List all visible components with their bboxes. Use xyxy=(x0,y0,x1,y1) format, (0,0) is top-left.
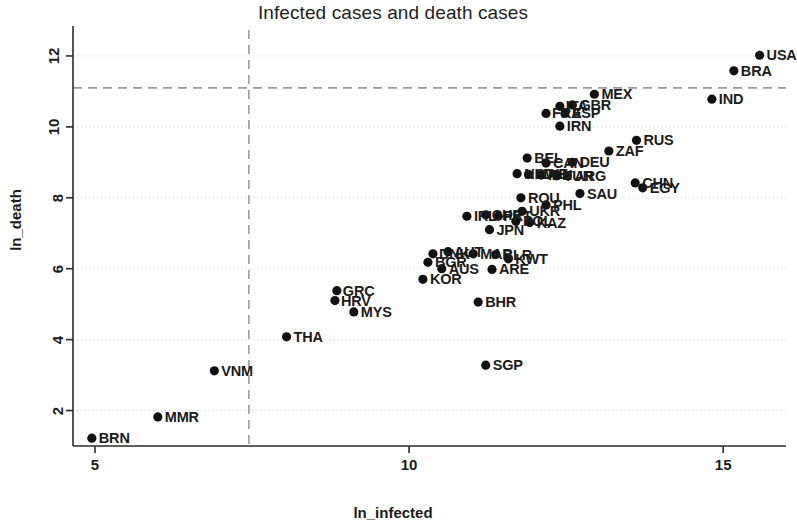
data-point-label: RUS xyxy=(643,133,673,148)
data-point-label: BRA xyxy=(741,64,772,79)
data-point-label: SGP xyxy=(493,358,523,373)
y-axis-title-container: ln_death xyxy=(14,0,15,440)
y-axis-title: ln_death xyxy=(7,189,24,251)
data-point-label: ARE xyxy=(499,262,529,277)
data-point xyxy=(541,109,550,118)
data-points-layer xyxy=(48,28,786,468)
data-point xyxy=(631,178,640,187)
data-point xyxy=(349,307,358,316)
data-point-label: BRN xyxy=(99,431,130,446)
y-tick-label: 10 xyxy=(45,118,62,135)
x-tick-label: 10 xyxy=(401,456,418,473)
x-tick-label: 5 xyxy=(91,456,99,473)
data-point xyxy=(516,193,525,202)
data-point xyxy=(418,275,427,284)
y-tick-label: 8 xyxy=(54,189,62,206)
data-point xyxy=(153,412,162,421)
data-point-label: BHR xyxy=(485,295,516,310)
data-point-label: JPN xyxy=(496,222,524,237)
data-point-label: EGY xyxy=(650,181,680,196)
data-point xyxy=(474,297,483,306)
data-point xyxy=(755,51,764,60)
data-point-label: KOR xyxy=(430,272,462,287)
data-point xyxy=(513,169,522,178)
data-point xyxy=(282,332,291,341)
data-point-label: SAU xyxy=(587,186,617,201)
data-point xyxy=(707,95,716,104)
data-point xyxy=(210,366,219,375)
data-point-label: THA xyxy=(294,330,323,345)
y-tick-label: 2 xyxy=(54,402,62,419)
data-point xyxy=(485,225,494,234)
data-point-label: ZAF xyxy=(616,144,644,159)
data-point-label: USA xyxy=(767,48,797,63)
plot-area: USABRAINDMEXGBRITAFRAESPIRNRUSZAFBELCAND… xyxy=(48,28,786,468)
data-point xyxy=(729,66,738,75)
y-tick-label: 12 xyxy=(45,47,62,64)
data-point-label: MYS xyxy=(361,305,392,320)
data-point xyxy=(481,361,490,370)
chart-title: Infected cases and death cases xyxy=(0,2,786,24)
data-point-label: VNM xyxy=(221,364,253,379)
data-point-label: IRN xyxy=(567,119,591,134)
data-point xyxy=(330,296,339,305)
y-tick-label: 4 xyxy=(54,331,62,348)
data-point xyxy=(555,122,564,131)
x-tick-label: 15 xyxy=(715,456,732,473)
data-point-label: KAZ xyxy=(537,215,566,230)
y-tick-label: 6 xyxy=(54,260,62,277)
data-point xyxy=(87,434,96,443)
data-point xyxy=(487,265,496,274)
data-point-label: IND xyxy=(719,92,743,107)
x-axis-title: ln_infected xyxy=(0,504,786,521)
data-point xyxy=(523,153,532,162)
data-point-label: MMR xyxy=(165,410,199,425)
data-point xyxy=(423,258,432,267)
data-point-label: ARG xyxy=(574,169,606,184)
data-point xyxy=(462,212,471,221)
